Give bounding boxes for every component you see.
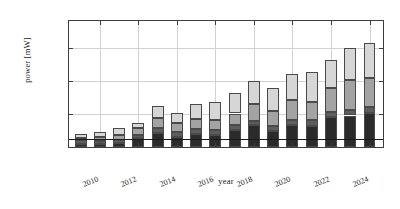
y-axis-tick: [379, 48, 383, 49]
x-axis-tick: [215, 21, 216, 25]
y-axis-tick: [69, 48, 73, 49]
y-axis-tick: [379, 147, 383, 148]
figure-canvas: power [mW] year 020004000600020102012201…: [0, 0, 400, 209]
bar-segment-segment-1: [190, 134, 202, 147]
bar-segment-segment-4: [267, 88, 279, 112]
x-axis-tick: [254, 21, 255, 25]
bar-segment-segment-3: [152, 118, 164, 128]
x-axis-tick: [215, 143, 216, 147]
plot-area: 0200040006000201020122014201620182020202…: [68, 20, 384, 148]
bar-2018[interactable]: [248, 21, 260, 147]
x-axis-tick: [177, 21, 178, 25]
bar-segment-segment-3: [229, 114, 241, 126]
bar-2019[interactable]: [267, 21, 279, 147]
x-axis-tick: [370, 21, 371, 25]
bar-segment-segment-3: [364, 78, 376, 107]
bar-segment-segment-2: [267, 126, 279, 132]
bar-segment-segment-4: [286, 74, 298, 101]
bar-segment-segment-3: [190, 119, 202, 130]
bar-segment-segment-4: [94, 132, 106, 137]
bar-segment-segment-4: [325, 60, 337, 88]
bar-segment-segment-1: [75, 144, 87, 147]
bar-2023[interactable]: [344, 21, 356, 147]
y-axis-label: power [mW]: [22, 0, 32, 120]
bar-segment-segment-3: [344, 80, 356, 110]
x-axis-tick: [331, 143, 332, 147]
bar-segment-segment-2: [75, 140, 87, 144]
x-axis-tick: [254, 143, 255, 147]
bar-2011[interactable]: [113, 21, 125, 147]
bar-segment-segment-3: [248, 104, 260, 121]
threshold-reference-line: [69, 139, 383, 140]
bar-2009[interactable]: [75, 21, 87, 147]
bar-segment-segment-4: [248, 81, 260, 104]
bar-segment-segment-4: [306, 72, 318, 102]
bar-segment-segment-2: [190, 129, 202, 134]
x-axis-tick: [292, 143, 293, 147]
bar-2020[interactable]: [286, 21, 298, 147]
bar-2021[interactable]: [306, 21, 318, 147]
bar-segment-segment-3: [306, 102, 318, 121]
x-axis-tick: [138, 143, 139, 147]
y-axis-tick: [69, 81, 73, 82]
bar-segment-segment-3: [325, 88, 337, 112]
bar-segment-segment-2: [306, 120, 318, 125]
bar-segment-segment-4: [132, 123, 144, 128]
x-axis-tick: [331, 21, 332, 25]
bar-segment-segment-4: [209, 102, 221, 120]
bar-segment-segment-4: [75, 134, 87, 138]
bar-segment-segment-2: [229, 125, 241, 130]
bar-segment-segment-2: [286, 120, 298, 125]
bar-2017[interactable]: [229, 21, 241, 147]
bar-segment-segment-2: [248, 121, 260, 126]
bar-segment-segment-2: [344, 110, 356, 116]
y-axis-tick: [379, 81, 383, 82]
y-axis-tick: [379, 114, 383, 115]
bar-segment-segment-1: [113, 143, 125, 147]
bar-2015[interactable]: [190, 21, 202, 147]
x-axis-tick: [138, 21, 139, 25]
bar-segment-segment-4: [152, 106, 164, 118]
bar-segment-segment-3: [209, 120, 221, 129]
x-axis-tick: [177, 143, 178, 147]
x-axis-tick: [100, 21, 101, 25]
bar-segment-segment-3: [171, 123, 183, 131]
bar-segment-segment-1: [364, 113, 376, 147]
bar-2010[interactable]: [94, 21, 106, 147]
bar-segment-segment-1: [344, 116, 356, 148]
x-axis-tick: [370, 143, 371, 147]
bar-segment-segment-2: [171, 132, 183, 137]
y-axis-tick: [69, 114, 73, 115]
bar-segment-segment-4: [113, 128, 125, 135]
x-axis-tick: [100, 143, 101, 147]
bar-segment-segment-3: [267, 111, 279, 125]
bar-2013[interactable]: [152, 21, 164, 147]
bar-segment-segment-2: [325, 112, 337, 117]
plot-inner: [69, 21, 383, 147]
bar-segment-segment-2: [209, 130, 221, 135]
bar-segment-segment-4: [171, 113, 183, 124]
bar-segment-segment-1: [306, 126, 318, 147]
bar-2024[interactable]: [364, 21, 376, 147]
bar-segment-segment-4: [190, 104, 202, 119]
y-axis-tick: [69, 147, 73, 148]
bar-2014[interactable]: [171, 21, 183, 147]
bar-segment-segment-4: [344, 48, 356, 80]
bar-segment-segment-4: [364, 43, 376, 77]
x-axis-tick: [292, 21, 293, 25]
bar-segment-segment-2: [113, 140, 125, 143]
x-axis-label: year: [68, 176, 384, 186]
bar-segment-segment-2: [364, 107, 376, 113]
bar-segment-segment-3: [132, 128, 144, 135]
bar-segment-segment-3: [286, 100, 298, 120]
bar-2012[interactable]: [132, 21, 144, 147]
bar-2016[interactable]: [209, 21, 221, 147]
bar-segment-segment-2: [152, 128, 164, 133]
bar-segment-segment-4: [229, 93, 241, 114]
bar-2022[interactable]: [325, 21, 337, 147]
